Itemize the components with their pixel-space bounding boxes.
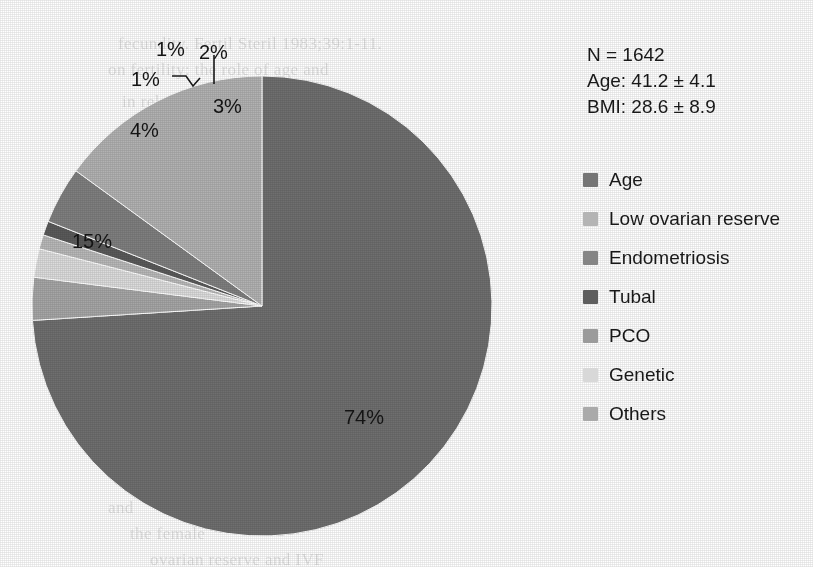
pie-label-low-ovarian-reserve: 15% — [72, 230, 112, 253]
pie-slices-group — [32, 76, 492, 536]
legend-swatch-icon — [583, 212, 598, 226]
legend-item-label: PCO — [609, 326, 650, 345]
legend-item-label: Tubal — [609, 287, 656, 306]
legend-swatch-icon — [583, 329, 598, 343]
legend-item-label: Others — [609, 404, 666, 423]
pie-chart-svg — [0, 0, 560, 567]
legend-swatch-icon — [583, 290, 598, 304]
legend-item-genetic[interactable]: Genetic — [583, 355, 780, 394]
legend-item-label: Endometriosis — [609, 248, 729, 267]
legend-swatch-icon — [583, 251, 598, 265]
legend-item-label: Age — [609, 170, 643, 189]
pie-label-genetic: 2% — [199, 41, 228, 64]
legend-item-endometriosis[interactable]: Endometriosis — [583, 238, 780, 277]
legend-item-label: Genetic — [609, 365, 674, 384]
pie-label-age: 74% — [344, 406, 384, 429]
stat-age: Age: 41.2 ± 4.1 — [587, 68, 716, 94]
legend-item-others[interactable]: Others — [583, 394, 780, 433]
stat-sample-size: N = 1642 — [587, 42, 716, 68]
legend-swatch-icon — [583, 407, 598, 421]
legend-item-age[interactable]: Age — [583, 160, 780, 199]
legend-swatch-icon — [583, 173, 598, 187]
pie-label-tubal: 1% — [131, 68, 160, 91]
pie-label-pco: 1% — [156, 38, 185, 61]
legend-item-label: Low ovarian reserve — [609, 209, 780, 228]
legend-swatch-icon — [583, 368, 598, 382]
pie-label-others: 3% — [213, 95, 242, 118]
legend-item-pco[interactable]: PCO — [583, 316, 780, 355]
leader-line-pct-1b — [172, 76, 200, 86]
legend-item-tubal[interactable]: Tubal — [583, 277, 780, 316]
summary-statistics: N = 1642 Age: 41.2 ± 4.1 BMI: 28.6 ± 8.9 — [587, 42, 716, 120]
legend-item-low-ovarian-reserve[interactable]: Low ovarian reserve — [583, 199, 780, 238]
chart-legend: AgeLow ovarian reserveEndometriosisTubal… — [583, 160, 780, 433]
stat-bmi: BMI: 28.6 ± 8.9 — [587, 94, 716, 120]
pie-label-endometriosis: 4% — [130, 119, 159, 142]
